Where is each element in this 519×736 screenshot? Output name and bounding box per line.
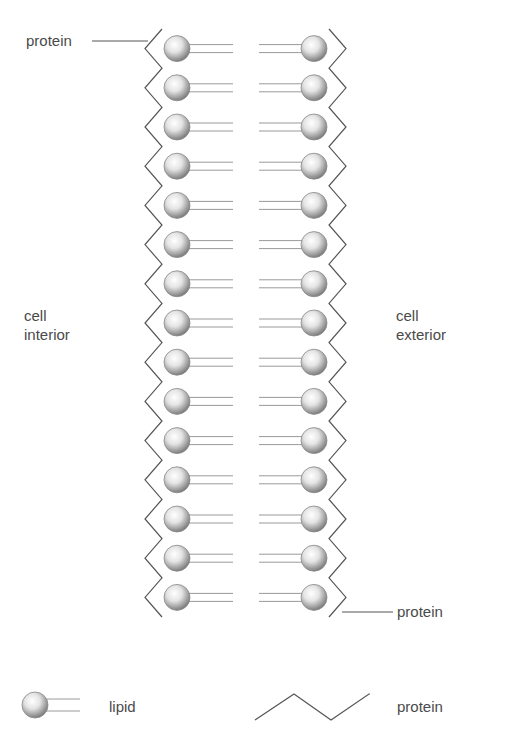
legend-protein-icon xyxy=(255,694,370,720)
legend-lipid-icon xyxy=(22,692,80,718)
lipid-head-left xyxy=(164,584,190,610)
lipid-head-right xyxy=(301,467,327,493)
membrane-diagram xyxy=(0,0,519,736)
legend-protein-label: protein xyxy=(397,697,443,716)
cell-interior-line1: cell xyxy=(24,306,70,325)
lipid-row xyxy=(164,428,327,454)
lipid-head-right xyxy=(301,349,327,375)
lipid-head-left xyxy=(164,271,190,297)
lipid-row xyxy=(164,271,327,297)
lipid-row xyxy=(164,192,327,218)
lipid-head-right xyxy=(301,36,327,62)
lipid-head-right xyxy=(301,232,327,258)
lipid-row xyxy=(164,545,327,571)
protein-top-label: protein xyxy=(26,31,72,50)
lipid-row xyxy=(164,114,327,140)
lipid-head-left xyxy=(164,192,190,218)
protein-bottom-label: protein xyxy=(397,602,443,621)
lipid-head-left xyxy=(164,232,190,258)
left-protein-zigzag xyxy=(145,29,162,617)
lipid-row xyxy=(164,310,327,336)
lipid-bilayer xyxy=(164,36,327,611)
cell-interior-line2: interior xyxy=(24,325,70,344)
lipid-head-left xyxy=(164,36,190,62)
lipid-head-left xyxy=(164,545,190,571)
lipid-head-right xyxy=(301,114,327,140)
lipid-row xyxy=(164,153,327,179)
lipid-head-right xyxy=(301,428,327,454)
lipid-head-left xyxy=(164,349,190,375)
lipid-row xyxy=(164,232,327,258)
lipid-row xyxy=(164,349,327,375)
lipid-head-left xyxy=(164,506,190,532)
lipid-row xyxy=(164,75,327,101)
lipid-head-right xyxy=(301,388,327,414)
lipid-head-right xyxy=(301,506,327,532)
legend-lipid-label: lipid xyxy=(109,697,136,716)
right-protein-zigzag xyxy=(329,29,346,617)
lipid-head-right xyxy=(301,310,327,336)
lipid-head-right xyxy=(301,584,327,610)
cell-exterior-line2: exterior xyxy=(396,325,446,344)
lipid-head-left xyxy=(164,75,190,101)
lipid-head-right xyxy=(301,545,327,571)
lipid-row xyxy=(164,36,327,62)
lipid-head-left xyxy=(164,467,190,493)
lipid-row xyxy=(164,506,327,532)
cell-interior-label: cell interior xyxy=(24,306,70,344)
lipid-head-left xyxy=(164,428,190,454)
lipid-row xyxy=(164,584,327,610)
cell-exterior-line1: cell xyxy=(396,306,446,325)
lipid-head-right xyxy=(301,75,327,101)
lipid-head-right xyxy=(301,153,327,179)
lipid-head-left xyxy=(164,388,190,414)
lipid-head-right xyxy=(301,271,327,297)
lipid-head-right xyxy=(301,192,327,218)
lipid-row xyxy=(164,467,327,493)
lipid-head-left xyxy=(164,310,190,336)
cell-exterior-label: cell exterior xyxy=(396,306,446,344)
lipid-head-left xyxy=(164,153,190,179)
lipid-row xyxy=(164,388,327,414)
lipid-head-left xyxy=(164,114,190,140)
